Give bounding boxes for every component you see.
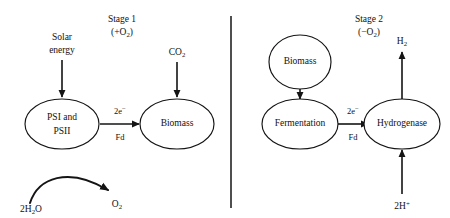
solar-energy-label-line1: Solar	[52, 32, 73, 42]
diagram-canvas: Stage 1 (+O2) Solar energy CO2 PSI and P…	[0, 0, 450, 218]
water-splitting-arrow	[30, 177, 108, 203]
electron-label-1: 2e−	[114, 105, 126, 116]
node-psi-psii-label-line1: PSI and	[47, 112, 77, 122]
stage-2-condition: (−O2)	[358, 27, 380, 38]
node-fermentation-label: Fermentation	[275, 118, 326, 128]
node-psi-psii	[25, 99, 99, 149]
solar-energy-label-line2: energy	[49, 45, 75, 55]
ferredoxin-label-2: Fd	[349, 132, 359, 142]
node-biomass-stage2-label: Biomass	[284, 56, 317, 66]
proton-input-label: 2H+	[394, 200, 410, 211]
stage-1-title: Stage 1	[108, 14, 136, 24]
stage-2-title: Stage 2	[355, 14, 383, 24]
electron-label-2: 2e−	[347, 105, 359, 116]
node-biomass-stage1-label: Biomass	[161, 118, 194, 128]
water-reactant-label: 2H2O	[20, 204, 42, 215]
co2-label: CO2	[169, 47, 186, 58]
hydrogen-output-label: H2	[397, 36, 408, 47]
node-psi-psii-label-line2: PSII	[54, 126, 71, 136]
oxygen-product-label: O2	[112, 199, 123, 210]
process-diagram: Stage 1 (+O2) Solar energy CO2 PSI and P…	[0, 0, 450, 218]
node-hydrogenase-label: Hydrogenase	[377, 118, 427, 128]
ferredoxin-label-1: Fd	[116, 132, 126, 142]
stage-1-condition: (+O2)	[111, 27, 133, 38]
